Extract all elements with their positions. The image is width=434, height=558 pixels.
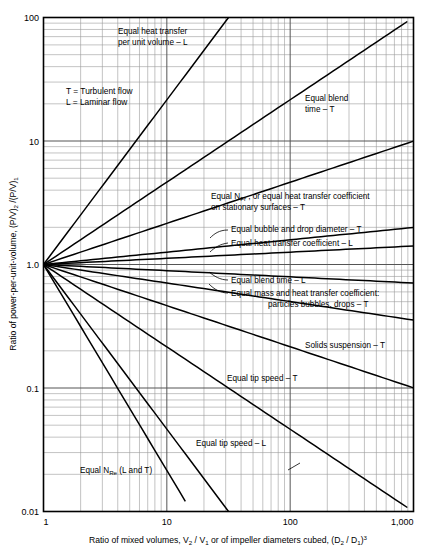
y-tick-label-2: 1.0 — [26, 260, 39, 270]
x-tick-label-0: 1 — [44, 517, 49, 527]
x-tick-label-1: 10 — [162, 517, 172, 527]
xtitle-part3: or of impeller diameters cubed, (D — [209, 535, 341, 545]
flow-legend: T = Turbulent flow L = Laminar flow — [66, 86, 134, 107]
y-axis-title: Ratio of power-per-unit-volume, (P/V)2 /… — [8, 177, 19, 351]
y-tick-label-1: 10 — [29, 137, 39, 147]
annot-tip-speed-l: Equal tip speed – L — [196, 439, 267, 448]
annot-nfr-line1: Equal NFr , or equal heat transfer coeff… — [211, 192, 370, 202]
annot-tip-speed-t: Equal tip speed – T — [227, 374, 297, 383]
y-tick-label-3: 0.1 — [26, 384, 39, 394]
svg-text:Ratio of mixed volumes, V2 / V: Ratio of mixed volumes, V2 / V1 or of im… — [89, 534, 368, 546]
x-tick-label-2: 100 — [283, 517, 298, 527]
x-axis-title: Ratio of mixed volumes, V2 / V1 or of im… — [89, 534, 368, 546]
x-tick-label-3: 1,000 — [391, 517, 414, 527]
annot-nfr-line2: on stationary surfaces – T — [211, 203, 305, 212]
y-tick-label-4: 0.01 — [21, 507, 39, 517]
annot-heat-transfer-vol-l-line1: Equal heat transfer — [118, 27, 187, 36]
legend-laminar: L = Laminar flow — [66, 97, 128, 107]
annot-nfr-a: Equal N — [211, 192, 240, 201]
annot-blend-time-t-line2: time – T — [305, 105, 334, 114]
svg-text:Ratio of power-per-unit-volume: Ratio of power-per-unit-volume, (P/V)2 /… — [8, 177, 19, 351]
annot-nre-b: (L and T) — [117, 466, 152, 475]
ytitle-part2: /(P/V) — [8, 181, 18, 205]
chart-figure: 1101001,000 100101.00.10.01 Ratio of mix… — [0, 0, 434, 558]
annot-mass-heat-line2: particles bubbles, drops – T — [268, 300, 368, 309]
annot-bubble-drop-t: Equal bubble and drop diameter – T — [231, 225, 361, 234]
legend-turbulent: T = Turbulent flow — [66, 86, 134, 96]
xtitle-part4: / D — [344, 535, 357, 545]
ytitle-part1: Ratio of power-per-unit-volume, (P/V) — [8, 208, 18, 350]
ytitle-sub2: 1 — [12, 177, 19, 181]
xtitle-part2: / V — [192, 535, 205, 545]
annot-nre: Equal NRe (L and T) — [80, 466, 152, 476]
xtitle-sup: 3 — [364, 534, 368, 541]
annot-heat-transfer-coeff-l: Equal heat transfer coefficient – L — [231, 239, 353, 248]
y-tick-label-0: 100 — [24, 13, 39, 23]
annot-mass-heat-line1: Equal mass and heat transfer coefficient… — [231, 289, 379, 298]
annot-nre-a: Equal N — [80, 466, 109, 475]
annot-nfr-b: , or equal heat transfer coefficient — [246, 192, 370, 201]
loglog-scaleup-chart: 1101001,000 100101.00.10.01 Ratio of mix… — [0, 0, 434, 558]
annot-heat-transfer-vol-l-line2: per unit volume – L — [118, 38, 188, 47]
annot-solids-suspension-t: Solids suspension – T — [305, 341, 385, 350]
xtitle-part1: Ratio of mixed volumes, V — [89, 535, 189, 545]
annot-blend-time-l: Equal blend time – L — [231, 276, 306, 285]
annot-blend-time-t-line1: Equal blend — [305, 94, 349, 103]
